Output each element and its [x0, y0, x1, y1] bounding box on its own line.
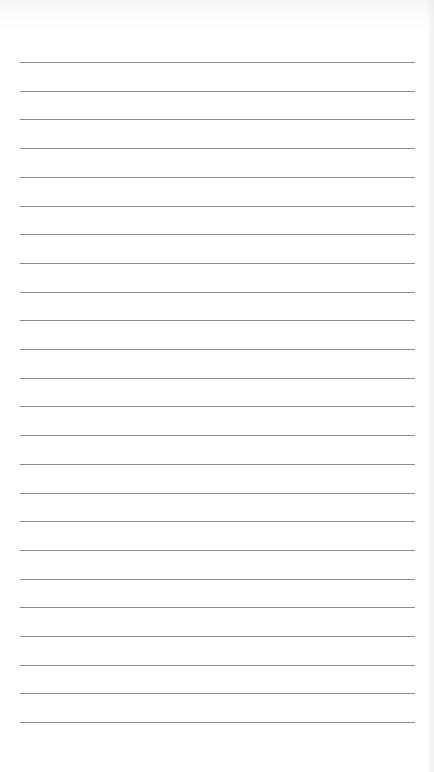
ruled-line: [20, 119, 415, 120]
ruled-line: [20, 579, 415, 580]
ruled-line: [20, 320, 415, 321]
page-edge-shadow: [426, 0, 434, 772]
ruled-line: [20, 62, 415, 63]
ruled-line: [20, 722, 415, 723]
ruled-line: [20, 406, 415, 407]
ruled-line: [20, 378, 415, 379]
ruled-line: [20, 263, 415, 264]
ruled-line: [20, 464, 415, 465]
ruled-lines: [0, 0, 434, 772]
ruled-line: [20, 349, 415, 350]
ruled-line: [20, 234, 415, 235]
ruled-line: [20, 493, 415, 494]
ruled-line: [20, 177, 415, 178]
ruled-line: [20, 521, 415, 522]
ruled-line: [20, 435, 415, 436]
ruled-line: [20, 91, 415, 92]
ruled-line: [20, 607, 415, 608]
ruled-line: [20, 636, 415, 637]
ruled-line: [20, 206, 415, 207]
ruled-line: [20, 693, 415, 694]
ruled-line: [20, 148, 415, 149]
ruled-line: [20, 665, 415, 666]
ruled-line: [20, 550, 415, 551]
lined-paper-page: [0, 0, 434, 772]
ruled-line: [20, 292, 415, 293]
